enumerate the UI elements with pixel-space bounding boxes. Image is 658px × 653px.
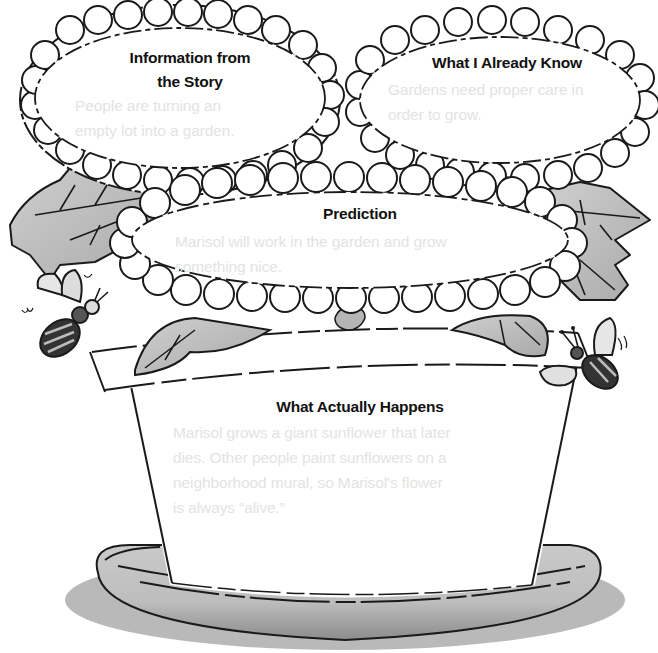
prediction-heading-text: Prediction: [300, 202, 420, 226]
already-know-heading: What I Already Know: [412, 51, 602, 75]
story-info-answer: People are turning an empty lot into a g…: [75, 93, 305, 143]
graphic-organizer: Information from the Story People are tu…: [0, 0, 658, 653]
actually-happens-heading: What Actually Happens: [255, 395, 465, 419]
actually-happens-answer: Marisol grows a giant sunflower that lat…: [173, 420, 513, 520]
actually-happens-heading-text: What Actually Happens: [255, 395, 465, 419]
already-know-heading-text: What I Already Know: [412, 51, 602, 75]
prediction-heading: Prediction: [300, 202, 420, 226]
actually-happens-answer-line2: dies. Other people paint sunflowers on a: [173, 445, 513, 470]
actually-happens-answer-line4: is always “alive.”: [173, 495, 513, 520]
actually-happens-answer-line1: Marisol grows a giant sunflower that lat…: [173, 420, 513, 445]
story-info-heading-line1: Information from: [105, 46, 275, 70]
already-know-answer-line2: order to grow.: [388, 102, 648, 127]
prediction-answer: Marisol will work in the garden and grow…: [175, 229, 515, 279]
story-info-heading-line2: the Story: [105, 70, 275, 94]
prediction-answer-line2: something nice.: [175, 254, 515, 279]
story-info-heading: Information from the Story: [105, 46, 275, 94]
prediction-answer-line1: Marisol will work in the garden and grow: [175, 229, 515, 254]
actually-happens-answer-line3: neighborhood mural, so Marisol's flower: [173, 470, 513, 495]
story-info-answer-line2: empty lot into a garden.: [75, 118, 305, 143]
already-know-answer: Gardens need proper care in order to gro…: [388, 77, 648, 127]
already-know-answer-line1: Gardens need proper care in: [388, 77, 648, 102]
story-info-answer-line1: People are turning an: [75, 93, 305, 118]
